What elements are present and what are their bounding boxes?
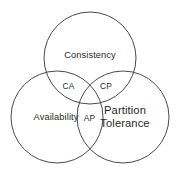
intersection-label-ap: AP	[84, 114, 95, 124]
set-label-availability: Availability	[34, 112, 79, 123]
set-label-consistency: Consistency	[64, 50, 116, 61]
set-label-partition-line1: Partition	[100, 104, 149, 117]
intersection-label-cp: CP	[100, 82, 112, 92]
venn-circles-group	[0, 0, 180, 181]
intersection-label-ca: CA	[63, 82, 75, 92]
set-label-partition-line2: Tolerance	[100, 117, 149, 130]
cap-theorem-venn-diagram: Consistency Availability Partition Toler…	[0, 0, 180, 181]
set-label-partition-tolerance: Partition Tolerance	[100, 104, 149, 130]
